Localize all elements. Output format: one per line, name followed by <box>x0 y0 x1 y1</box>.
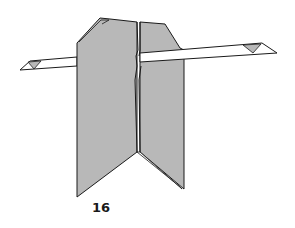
step-number: 16 <box>86 200 116 215</box>
horizontal-strip-left <box>20 57 77 70</box>
left-panel <box>77 18 137 197</box>
origami-diagram <box>0 0 295 228</box>
right-panel <box>140 22 184 189</box>
